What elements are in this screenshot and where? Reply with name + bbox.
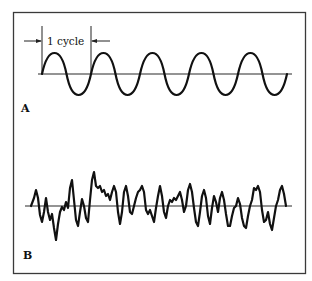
cycle-label: 1 cycle [47, 35, 84, 47]
left-arrow-icon [24, 39, 42, 43]
panel-b: B [23, 172, 292, 262]
panel-a: 1 cycle A [20, 26, 292, 115]
panel-label-a: A [20, 102, 30, 115]
waveform-figure: 1 cycle A B [0, 0, 312, 281]
panel-label-b: B [23, 249, 32, 262]
right-arrow-icon [91, 39, 110, 43]
